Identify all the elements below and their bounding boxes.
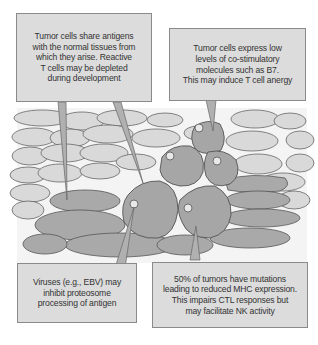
callout-low-costimulatory: Tumor cells express low levels of co-sti… <box>169 28 306 101</box>
callout-viruses-proteosome: Viruses (e.g., EBV) may inhibit proteoso… <box>17 263 137 323</box>
callout-reduced-mhc-text: 50% of tumors have mutations leading to … <box>163 274 297 316</box>
callout-shared-antigens-text: Tumor cells share antigens with the norm… <box>33 31 136 84</box>
callout-low-costimulatory-text: Tumor cells express low levels of co-sti… <box>183 43 293 85</box>
tumor-cell-upper-left <box>160 146 203 186</box>
callout-viruses-proteosome-text: Viruses (e.g., EBV) may inhibit proteoso… <box>33 277 121 309</box>
callout-shared-antigens: Tumor cells share antigens with the norm… <box>16 13 152 102</box>
callout-reduced-mhc: 50% of tumors have mutations leading to … <box>152 262 308 328</box>
